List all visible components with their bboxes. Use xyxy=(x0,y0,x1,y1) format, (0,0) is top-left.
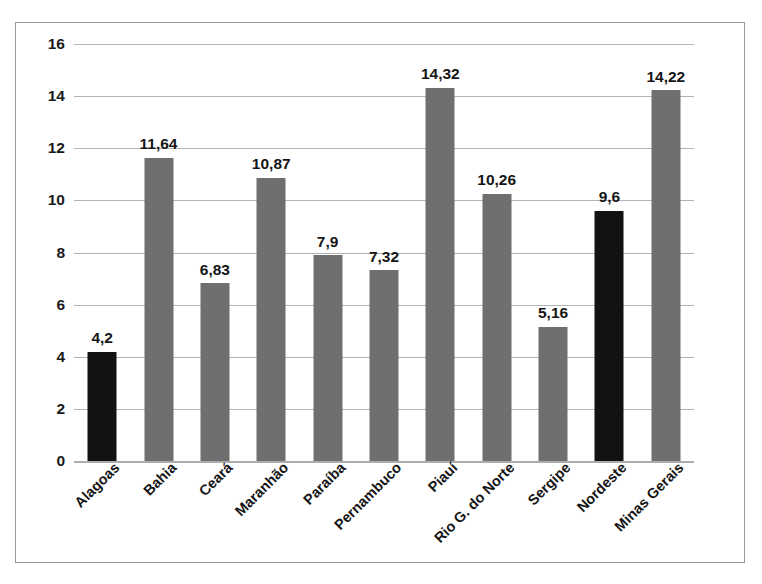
chart-screenshot: 16141210864204,2Alagoas11,64Bahia6,83Cea… xyxy=(0,0,762,584)
bar[interactable] xyxy=(144,158,173,461)
bar[interactable] xyxy=(539,327,568,461)
bar-group[interactable]: 14,32Piauí xyxy=(412,44,468,461)
bar[interactable] xyxy=(257,178,286,461)
bar-group[interactable]: 14,22Minas Gerais xyxy=(638,44,694,461)
bar-value-label: 9,6 xyxy=(599,189,621,205)
plot-area: 16141210864204,2Alagoas11,64Bahia6,83Cea… xyxy=(74,44,694,461)
bar[interactable] xyxy=(426,88,455,461)
bar-value-label: 14,32 xyxy=(421,66,460,82)
bar-group[interactable]: 10,87Maranhão xyxy=(243,44,299,461)
bar-value-label: 7,9 xyxy=(317,234,339,250)
bar[interactable] xyxy=(482,194,511,461)
y-axis-tick-label: 0 xyxy=(56,453,65,469)
y-axis-tick-label: 4 xyxy=(56,349,65,365)
y-axis-tick-label: 2 xyxy=(56,401,65,417)
bar-value-label: 7,32 xyxy=(369,249,399,265)
y-axis-tick-label: 14 xyxy=(48,88,65,104)
bar-group[interactable]: 4,2Alagoas xyxy=(74,44,130,461)
bar-value-label: 10,26 xyxy=(477,172,516,188)
y-axis-tick-label: 16 xyxy=(48,36,65,52)
y-axis-tick-label: 6 xyxy=(56,297,65,313)
y-axis-tick-label: 10 xyxy=(48,193,65,209)
bar-value-label: 14,22 xyxy=(646,69,685,85)
bar-group[interactable]: 7,32Pernambuco xyxy=(356,44,412,461)
bar-group[interactable]: 9,6Nordeste xyxy=(581,44,637,461)
bar-value-label: 10,87 xyxy=(252,156,291,172)
bar-value-label: 11,64 xyxy=(140,136,178,152)
bar-value-label: 4,2 xyxy=(91,330,113,346)
bar-group[interactable]: 7,9Paraíba xyxy=(299,44,355,461)
bar-group[interactable]: 10,26Rio G. do Norte xyxy=(469,44,525,461)
bar-group[interactable]: 11,64Bahia xyxy=(130,44,186,461)
bar[interactable] xyxy=(651,90,680,461)
y-axis-tick-label: 8 xyxy=(56,245,65,261)
bar-value-label: 6,83 xyxy=(200,262,230,278)
bar[interactable] xyxy=(369,270,398,461)
bar-group[interactable]: 6,83Ceará xyxy=(187,44,243,461)
bar[interactable] xyxy=(200,283,229,461)
y-axis-tick-label: 12 xyxy=(48,141,65,157)
bar[interactable] xyxy=(88,352,117,461)
bar[interactable] xyxy=(595,211,624,461)
bar-value-label: 5,16 xyxy=(538,305,568,321)
bar[interactable] xyxy=(313,255,342,461)
bar-group[interactable]: 5,16Sergipe xyxy=(525,44,581,461)
